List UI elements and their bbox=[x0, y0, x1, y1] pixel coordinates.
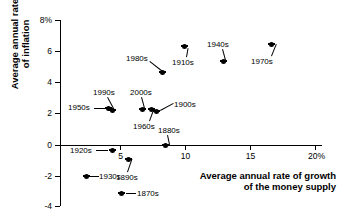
data-point-1920s[interactable] bbox=[110, 148, 115, 153]
x-tick-label-20: 20% bbox=[300, 152, 333, 161]
y-tick-neg4 bbox=[55, 206, 60, 207]
point-label-2000s: 2000s bbox=[130, 88, 152, 97]
point-label-1970s: 1970s bbox=[251, 57, 273, 66]
leader-1930s bbox=[90, 176, 99, 177]
scatter-chart: 8% 6 4 2 0 -2 -4 5 10 15 20% Average ann… bbox=[0, 0, 338, 221]
data-point-1930s[interactable] bbox=[84, 174, 89, 179]
x-tick-label-15: 15 bbox=[236, 152, 265, 161]
y-tick-label-neg2: -2 bbox=[22, 172, 52, 181]
point-label-1980s: 1980s bbox=[126, 54, 148, 63]
data-point-1870s[interactable] bbox=[119, 191, 124, 196]
leader-1950s bbox=[94, 108, 106, 109]
x-tick-5 bbox=[120, 145, 121, 150]
x-tick-10 bbox=[185, 145, 186, 150]
x-axis-title: Average annual rate of growth of the mon… bbox=[160, 170, 336, 192]
y-tick-label-2: 2 bbox=[22, 109, 52, 118]
y-tick-label-0: 0 bbox=[22, 141, 52, 150]
leader-1910s bbox=[186, 48, 189, 57]
y-axis-title: Average annual rate of inflation bbox=[9, 0, 31, 92]
data-point-1910s[interactable] bbox=[182, 44, 187, 49]
y-tick-4 bbox=[55, 82, 60, 83]
point-label-1950s: 1950s bbox=[68, 103, 90, 112]
leader-1920s bbox=[96, 150, 108, 151]
point-label-1960s: 1960s bbox=[133, 122, 155, 131]
point-label-1940s: 1940s bbox=[207, 40, 229, 49]
y-tick-0 bbox=[55, 145, 60, 146]
x-tick-label-10: 10 bbox=[171, 152, 200, 161]
point-label-1990s: 1990s bbox=[93, 88, 115, 97]
data-point-1970s[interactable] bbox=[269, 42, 274, 47]
leader-1960s bbox=[149, 112, 153, 122]
leader-1900s bbox=[160, 103, 174, 111]
point-label-1910s: 1910s bbox=[172, 58, 194, 67]
y-tick-2 bbox=[55, 113, 60, 114]
x-axis-line bbox=[60, 145, 322, 146]
x-tick-15 bbox=[250, 145, 251, 150]
x-tick-20 bbox=[315, 145, 316, 150]
data-point-1900s[interactable] bbox=[154, 109, 159, 114]
y-tick-label-neg4: -4 bbox=[22, 202, 52, 211]
y-tick-neg2 bbox=[55, 176, 60, 177]
y-tick-8 bbox=[55, 20, 60, 21]
data-point-1880s[interactable] bbox=[163, 143, 168, 148]
y-tick-6 bbox=[55, 51, 60, 52]
point-label-1900s: 1900s bbox=[174, 100, 196, 109]
point-label-1880s: 1880s bbox=[158, 126, 180, 135]
leader-1870s bbox=[126, 193, 136, 194]
leader-1980s bbox=[149, 61, 162, 72]
y-axis-line bbox=[60, 20, 61, 206]
point-label-1890s: 1890s bbox=[116, 173, 138, 182]
point-label-1870s: 1870s bbox=[137, 189, 159, 198]
point-label-1920s: 1920s bbox=[70, 146, 92, 155]
